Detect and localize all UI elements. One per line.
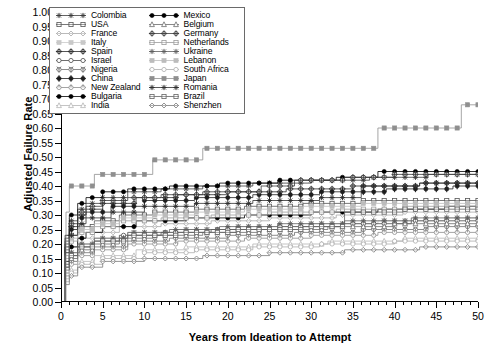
x-tick-label: 5 xyxy=(100,311,106,322)
x-tick-label: 15 xyxy=(180,311,192,322)
x-minor-tick xyxy=(94,302,95,305)
x-axis-title: Years from Ideation to Attempt xyxy=(60,331,480,343)
x-minor-tick xyxy=(86,302,87,305)
legend-symbol xyxy=(54,65,88,74)
x-minor-tick xyxy=(286,302,287,305)
legend-symbol xyxy=(147,74,181,83)
y-tick xyxy=(55,186,61,187)
y-tick-label: 0.20 xyxy=(33,239,53,250)
x-minor-tick xyxy=(211,302,212,305)
x-minor-tick xyxy=(361,302,362,305)
y-tick-label: 0.30 xyxy=(33,210,53,221)
x-minor-tick xyxy=(336,302,337,305)
x-tick-label: 50 xyxy=(472,311,484,322)
legend-item-india[interactable]: India xyxy=(54,101,141,110)
x-tick xyxy=(436,302,437,308)
x-minor-tick xyxy=(244,302,245,305)
x-tick-label: 45 xyxy=(430,311,442,322)
y-tick-label: 0.50 xyxy=(33,152,53,163)
x-minor-tick xyxy=(194,302,195,305)
x-minor-tick xyxy=(378,302,379,305)
y-tick xyxy=(55,143,61,144)
y-tick xyxy=(55,128,61,129)
x-minor-tick xyxy=(428,302,429,305)
legend-symbol xyxy=(147,29,181,38)
x-minor-tick xyxy=(78,302,79,305)
x-minor-tick xyxy=(169,302,170,305)
y-tick-label: 0.00 xyxy=(33,297,53,308)
legend: ColombiaUSAFranceItalySpainIsraelNigeria… xyxy=(49,7,245,114)
y-tick-label: 0.25 xyxy=(33,224,53,235)
x-minor-tick xyxy=(370,302,371,305)
x-minor-tick xyxy=(236,302,237,305)
y-tick-label: 0.15 xyxy=(33,253,53,264)
legend-symbol xyxy=(54,11,88,20)
y-tick-label: 0.05 xyxy=(33,282,53,293)
legend-label: India xyxy=(88,101,109,110)
legend-item-shenzhen[interactable]: Shenzhen xyxy=(147,101,229,110)
x-tick xyxy=(311,302,312,308)
x-minor-tick xyxy=(111,302,112,305)
x-minor-tick xyxy=(153,302,154,305)
x-minor-tick xyxy=(345,302,346,305)
legend-symbol xyxy=(147,101,181,110)
legend-symbol xyxy=(54,20,88,29)
x-tick xyxy=(478,302,479,308)
x-tick xyxy=(144,302,145,308)
y-tick xyxy=(55,215,61,216)
legend-symbol xyxy=(147,92,181,101)
x-minor-tick xyxy=(128,302,129,305)
y-tick-label: 0.60 xyxy=(33,123,53,134)
legend-column-1: ColombiaUSAFranceItalySpainIsraelNigeria… xyxy=(54,11,141,110)
x-tick-label: 35 xyxy=(347,311,359,322)
y-tick xyxy=(55,230,61,231)
x-minor-tick xyxy=(403,302,404,305)
chart-root: Adjusted Failure Rate Years from Ideatio… xyxy=(0,0,492,351)
x-minor-tick xyxy=(470,302,471,305)
legend-symbol xyxy=(147,65,181,74)
y-tick-label: 0.40 xyxy=(33,181,53,192)
legend-symbol xyxy=(54,101,88,110)
x-minor-tick xyxy=(278,302,279,305)
y-tick xyxy=(55,157,61,158)
y-tick xyxy=(55,259,61,260)
x-minor-tick xyxy=(420,302,421,305)
y-tick xyxy=(55,172,61,173)
x-tick-label: 40 xyxy=(389,311,401,322)
legend-column-2: MexicoBelgiumGermanyNetherlandsUkraineLe… xyxy=(147,11,229,110)
y-tick xyxy=(55,273,61,274)
x-minor-tick xyxy=(445,302,446,305)
y-tick-label: 0.45 xyxy=(33,166,53,177)
x-tick-label: 30 xyxy=(305,311,317,322)
x-tick-label: 20 xyxy=(222,311,234,322)
legend-symbol xyxy=(54,56,88,65)
y-tick-label: 0.55 xyxy=(33,137,53,148)
x-tick xyxy=(395,302,396,308)
legend-symbol xyxy=(147,11,181,20)
x-tick xyxy=(61,302,62,308)
x-minor-tick xyxy=(295,302,296,305)
x-tick-label: 10 xyxy=(139,311,151,322)
legend-symbol xyxy=(147,83,181,92)
legend-symbol xyxy=(54,92,88,101)
legend-symbol xyxy=(54,74,88,83)
y-tick-label: 0.35 xyxy=(33,195,53,206)
x-minor-tick xyxy=(69,302,70,305)
x-minor-tick xyxy=(453,302,454,305)
legend-symbol xyxy=(147,47,181,56)
y-tick xyxy=(55,201,61,202)
y-tick-label: 0.10 xyxy=(33,268,53,279)
legend-symbol xyxy=(147,38,181,47)
x-minor-tick xyxy=(161,302,162,305)
x-minor-tick xyxy=(136,302,137,305)
x-tick xyxy=(103,302,104,308)
legend-symbol xyxy=(54,83,88,92)
legend-symbol xyxy=(147,20,181,29)
legend-symbol xyxy=(54,38,88,47)
legend-symbol xyxy=(54,29,88,38)
legend-symbol xyxy=(147,56,181,65)
x-tick xyxy=(270,302,271,308)
x-minor-tick xyxy=(320,302,321,305)
x-minor-tick xyxy=(328,302,329,305)
x-tick xyxy=(353,302,354,308)
